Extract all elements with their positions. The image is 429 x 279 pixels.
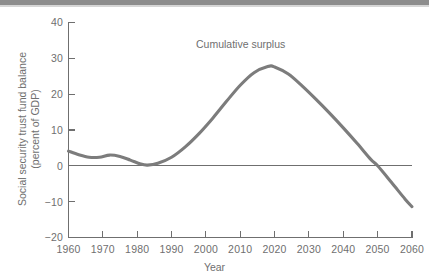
series-cumulative-surplus [69, 66, 413, 207]
y-axis-title-line2: (percent of GDP) [29, 89, 41, 168]
y-axis-title: Social security trust fund balance (perc… [16, 24, 42, 234]
y-axis-ticks [69, 23, 76, 238]
x-axis-title: Year [0, 261, 429, 273]
x-axis-ticks [69, 231, 413, 238]
figure-container: 40 30 20 10 0 −10 −20 1960 1970 1980 199… [0, 0, 429, 279]
x-tick-label-2060: 2060 [390, 243, 429, 255]
y-axis-title-line1: Social security trust fund balance [16, 52, 28, 206]
series-annotation-cumulative-surplus: Cumulative surplus [196, 38, 285, 50]
